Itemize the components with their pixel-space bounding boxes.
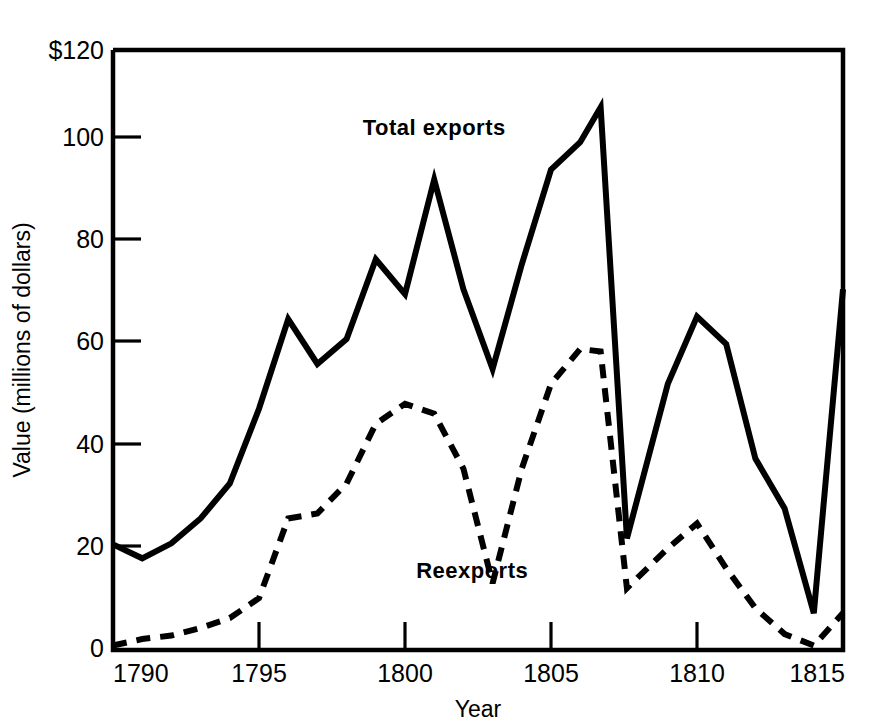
y-tick-label-40: 40 bbox=[76, 430, 104, 458]
x-axis-tick-labels: 1790 1795 1800 1805 1810 1815 bbox=[113, 659, 845, 687]
y-tick-label-0: 0 bbox=[90, 634, 104, 662]
x-tick-label-1815: 1815 bbox=[789, 659, 845, 687]
y-tick-label-60: 60 bbox=[76, 327, 104, 355]
y-tick-label-100: 100 bbox=[62, 123, 104, 151]
y-tick-label-80: 80 bbox=[76, 225, 104, 253]
y-axis-tick-labels: $120 100 80 60 40 20 0 bbox=[48, 36, 104, 662]
annotation-reexports: Reexports bbox=[416, 558, 528, 583]
x-tick-label-1800: 1800 bbox=[377, 659, 433, 687]
y-axis-ticks bbox=[113, 137, 141, 546]
x-tick-label-1790: 1790 bbox=[113, 659, 169, 687]
x-tick-label-1795: 1795 bbox=[231, 659, 287, 687]
x-tick-label-1805: 1805 bbox=[523, 659, 579, 687]
series-line-reexports bbox=[113, 349, 843, 646]
y-tick-label-120: $120 bbox=[48, 36, 104, 64]
x-axis-ticks bbox=[259, 622, 697, 650]
x-tick-label-1810: 1810 bbox=[669, 659, 725, 687]
chart-container: $120 100 80 60 40 20 0 1790 1795 1800 18… bbox=[0, 0, 895, 728]
x-axis-title: Year bbox=[455, 696, 502, 722]
y-axis-title: Value (millions of dollars) bbox=[9, 222, 35, 477]
exports-line-chart: $120 100 80 60 40 20 0 1790 1795 1800 18… bbox=[0, 0, 895, 728]
y-tick-label-20: 20 bbox=[76, 532, 104, 560]
annotation-total-exports: Total exports bbox=[363, 115, 506, 140]
